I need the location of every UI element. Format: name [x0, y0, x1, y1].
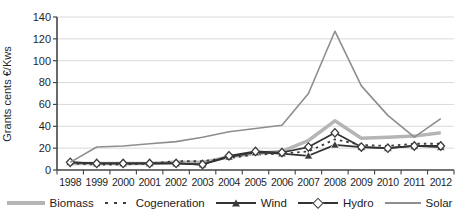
hydro-marker-2008: [331, 129, 339, 137]
legend-item-biomass: Biomass: [7, 197, 94, 209]
legend-item-wind: Wind: [216, 197, 287, 209]
line-chart: 0204060801001201401998199920002001200220…: [0, 0, 459, 191]
chart-legend: BiomassCogenerationWindHydroSolar: [0, 191, 459, 215]
chart-figure: 0204060801001201401998199920002001200220…: [0, 0, 459, 217]
x-tick-label-2010: 2010: [377, 176, 400, 188]
x-tick-label-2012: 2012: [430, 176, 453, 188]
legend-label-solar: Solar: [426, 197, 453, 209]
triangle-marker-icon: [232, 200, 240, 207]
legend-label-cogeneration: Cogeneration: [136, 197, 205, 209]
legend-item-hydro: Hydro: [298, 197, 374, 209]
x-tick-label-1998: 1998: [59, 176, 82, 188]
x-tick-label-2007: 2007: [297, 176, 320, 188]
legend-item-cogeneration: Cogeneration: [105, 197, 205, 209]
y-tick-label-120: 120: [33, 33, 51, 45]
x-tick-label-2008: 2008: [324, 176, 347, 188]
x-tick-label-2002: 2002: [165, 176, 188, 188]
legend-swatch-biomass: [7, 197, 45, 209]
y-tick-label-40: 40: [39, 120, 51, 132]
x-tick-label-2004: 2004: [218, 176, 241, 188]
x-axis: 1998199920002001200220032004200520062007…: [57, 170, 454, 188]
y-tick-label-60: 60: [39, 98, 51, 110]
y-axis: 020406080100120140: [33, 11, 57, 176]
x-tick-label-2000: 2000: [112, 176, 135, 188]
legend-swatch-hydro: [298, 197, 338, 209]
legend-label-biomass: Biomass: [50, 197, 94, 209]
y-tick-label-0: 0: [45, 164, 51, 176]
legend-swatch-wind: [216, 197, 256, 209]
y-tick-label-100: 100: [33, 55, 51, 67]
y-tick-label-80: 80: [39, 76, 51, 88]
x-tick-label-2009: 2009: [350, 176, 373, 188]
legend-swatch-solar: [385, 197, 421, 209]
x-tick-label-2011: 2011: [404, 176, 426, 188]
series-solar: [70, 31, 441, 162]
x-tick-label-2001: 2001: [139, 176, 162, 188]
x-tick-label-2005: 2005: [244, 176, 267, 188]
biomass-line-sample: [7, 201, 45, 205]
diamond-marker-icon: [313, 198, 324, 209]
legend-swatch-cogeneration: [105, 197, 131, 209]
x-tick-label-1999: 1999: [86, 176, 109, 188]
y-tick-label-140: 140: [33, 11, 51, 23]
x-tick-label-2006: 2006: [271, 176, 294, 188]
legend-label-hydro: Hydro: [343, 197, 374, 209]
series-line-solar: [70, 31, 441, 162]
y-axis-title: Grants cents €/Kws: [1, 46, 13, 142]
x-tick-label-2003: 2003: [191, 176, 214, 188]
series-line-biomass: [70, 121, 441, 164]
legend-item-solar: Solar: [385, 197, 453, 209]
legend-label-wind: Wind: [261, 197, 287, 209]
series-hydro: [66, 129, 444, 169]
cogeneration-line-sample: [105, 202, 131, 204]
y-tick-label-20: 20: [39, 142, 51, 154]
series-biomass: [70, 121, 441, 164]
solar-line-sample: [385, 202, 421, 204]
